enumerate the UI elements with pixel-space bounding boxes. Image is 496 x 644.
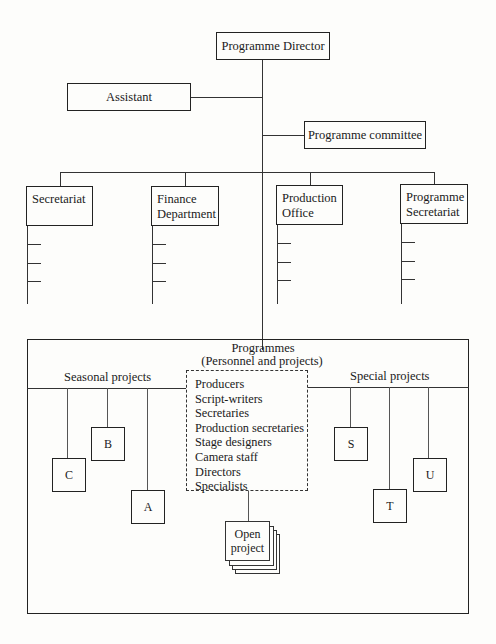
department-label-line1: Programme: [406, 190, 467, 205]
department-production-office: Production Office: [276, 185, 343, 225]
special-projects-bar: [307, 387, 469, 388]
assistant-box: Assistant: [67, 83, 191, 111]
staff-item: Camera staff: [195, 450, 307, 465]
dept-stem-1: [27, 226, 28, 304]
dept-tick: [27, 281, 41, 282]
department-label-line2: Secretariat: [406, 205, 467, 220]
dept-tick: [277, 262, 291, 263]
seasonal-project-b: B: [91, 427, 125, 461]
seasonal-projects-label: Seasonal projects: [64, 370, 151, 385]
open-project-label-line2: project: [231, 541, 264, 555]
project-label: U: [426, 468, 435, 483]
dept-connector-3: [310, 172, 311, 186]
programmes-subtitle: (Personnel and projects): [186, 354, 338, 369]
programme-director-box: Programme Director: [216, 32, 330, 60]
open-project-box: Open project: [225, 521, 270, 561]
programme-committee-box: Programme committee: [304, 121, 426, 149]
special-project-u: U: [413, 458, 447, 492]
dept-tick: [152, 263, 166, 264]
staff-list: Producers Script-writers Secretaries Pro…: [187, 371, 307, 494]
assistant-connector: [191, 97, 262, 98]
department-label-line2: Department: [157, 207, 218, 222]
dept-tick: [152, 281, 166, 282]
open-project-line: [248, 491, 249, 522]
staff-item: Producers: [195, 377, 307, 392]
dept-tick: [277, 280, 291, 281]
staff-pool-box: Producers Script-writers Secretaries Pro…: [186, 370, 308, 491]
project-t-line: [389, 387, 390, 490]
project-u-line: [428, 387, 429, 459]
special-projects-label: Special projects: [350, 369, 430, 384]
dept-tick: [277, 243, 291, 244]
project-s-line: [350, 387, 351, 428]
project-label: B: [104, 437, 112, 452]
programme-committee-label: Programme committee: [308, 128, 422, 143]
special-project-t: T: [373, 489, 407, 523]
department-label-line1: Finance: [157, 192, 218, 207]
dept-stem-3: [277, 225, 278, 304]
special-project-s: S: [334, 427, 368, 461]
dept-connector-2: [185, 172, 186, 187]
department-finance: Finance Department: [151, 186, 219, 226]
committee-connector: [262, 135, 304, 136]
open-project-label-line1: Open: [235, 527, 261, 541]
dept-tick: [401, 242, 415, 243]
dept-stem-2: [152, 226, 153, 304]
department-bus-line: [60, 172, 434, 173]
department-programme-secretariat: Programme Secretariat: [400, 184, 468, 224]
dept-connector-1: [60, 172, 61, 187]
project-label: T: [386, 499, 393, 514]
dept-tick: [27, 244, 41, 245]
dept-tick: [401, 261, 415, 262]
main-spine-line: [262, 60, 263, 350]
project-c-line: [67, 388, 68, 459]
dept-tick: [152, 244, 166, 245]
dept-stem-4: [401, 224, 402, 304]
seasonal-project-c: C: [52, 458, 86, 492]
department-label-line2: Office: [282, 206, 342, 221]
staff-item: Directors: [195, 465, 307, 480]
department-label-line1: Production: [282, 191, 342, 206]
assistant-label: Assistant: [106, 90, 152, 105]
dept-tick: [401, 279, 415, 280]
seasonal-project-a: A: [131, 490, 165, 524]
staff-item: Production secretaries: [195, 421, 307, 436]
department-secretariat: Secretariat: [26, 186, 93, 226]
staff-item: Stage designers: [195, 435, 307, 450]
project-b-line: [107, 388, 108, 428]
project-label: C: [65, 468, 73, 483]
project-a-line: [147, 388, 148, 491]
staff-item: Secretaries: [195, 406, 307, 421]
staff-item: Script-writers: [195, 392, 307, 407]
programme-director-label: Programme Director: [221, 39, 324, 54]
project-label: S: [348, 437, 355, 452]
staff-item: Specialists: [195, 479, 307, 494]
department-label-line1: Secretariat: [32, 192, 92, 207]
dept-tick: [27, 263, 41, 264]
project-label: A: [144, 500, 153, 515]
